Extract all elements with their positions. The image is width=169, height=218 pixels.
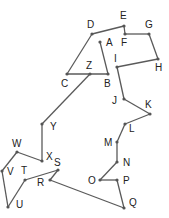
point-d-label: D — [87, 19, 94, 30]
point-l-dot — [123, 122, 126, 125]
point-o-label: O — [88, 175, 96, 186]
point-m-label: M — [104, 137, 112, 148]
point-b-dot — [106, 72, 109, 75]
segment-n-o — [100, 162, 117, 180]
point-s-dot — [56, 168, 59, 171]
point-w-label: W — [12, 138, 22, 149]
point-z-dot — [88, 72, 91, 75]
point-d-dot — [90, 32, 93, 35]
point-u-dot — [6, 205, 9, 208]
point-y-label: Y — [50, 121, 57, 132]
segment-l-m — [117, 124, 125, 142]
point-z-label: Z — [86, 60, 92, 71]
segment-d-e — [92, 26, 124, 34]
point-v-dot — [0, 169, 3, 172]
point-x-dot — [40, 159, 43, 162]
point-g-dot — [147, 32, 150, 35]
point-labels: ABCDEFGHIJKLMNOPQRSTUVWXYZ — [7, 10, 162, 210]
point-t-label: T — [21, 165, 27, 176]
point-v-label: V — [7, 166, 14, 177]
point-j-label: J — [112, 95, 117, 106]
point-m-dot — [115, 140, 118, 143]
dot-to-dot-diagram: ABCDEFGHIJKLMNOPQRSTUVWXYZ — [0, 0, 169, 218]
point-i-label: I — [114, 53, 117, 64]
point-f-dot — [123, 32, 126, 35]
point-x-label: X — [46, 151, 53, 162]
point-b-label: B — [104, 78, 111, 89]
point-t-dot — [23, 178, 26, 181]
segment-g-h — [149, 34, 158, 59]
point-c-dot — [65, 72, 68, 75]
point-h-dot — [156, 57, 159, 60]
point-a-dot — [98, 40, 101, 43]
segment-w-x — [17, 152, 42, 161]
point-w-dot — [15, 150, 18, 153]
point-r-dot — [48, 178, 51, 181]
point-n-label: N — [123, 157, 130, 168]
segment-i-j — [117, 67, 124, 99]
point-a-label: A — [106, 37, 113, 48]
point-l-label: L — [129, 123, 135, 134]
point-c-label: C — [61, 78, 68, 89]
point-q-label: Q — [129, 197, 137, 208]
point-g-label: G — [145, 19, 153, 30]
point-h-label: H — [155, 62, 162, 73]
point-o-dot — [98, 178, 101, 181]
point-e-label: E — [120, 10, 127, 21]
point-n-dot — [115, 160, 118, 163]
segment-q-r — [50, 180, 124, 208]
point-y-dot — [40, 122, 43, 125]
point-s-label: S — [54, 157, 61, 168]
point-e-dot — [122, 24, 125, 27]
point-k-dot — [148, 112, 151, 115]
point-r-label: R — [37, 177, 44, 188]
segment-h-i — [117, 59, 158, 67]
point-q-dot — [122, 206, 125, 209]
point-i-dot — [115, 65, 118, 68]
point-p-dot — [115, 178, 118, 181]
point-k-label: K — [145, 99, 152, 110]
point-u-label: U — [16, 199, 23, 210]
point-p-label: P — [123, 175, 130, 186]
point-j-dot — [122, 97, 125, 100]
point-f-label: F — [121, 37, 127, 48]
